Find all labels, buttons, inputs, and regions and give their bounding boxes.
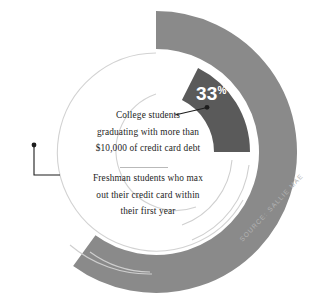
outer-percent-value: 60 <box>22 95 44 116</box>
outer-percent-label: 60% <box>22 96 53 115</box>
outer-percent-unit: % <box>44 97 53 108</box>
inner-caption-line-2: graduating with more than <box>66 124 230 141</box>
inner-percent-value: 33 <box>196 83 218 104</box>
inner-percent-unit: % <box>218 85 227 96</box>
inner-caption-line-1: College students <box>66 107 230 124</box>
inner-caption-line-3: $10,000 of credit card debt <box>66 140 230 157</box>
caption-divider <box>120 167 168 168</box>
outer-leader-line <box>32 143 60 175</box>
outer-caption-line-2: out their credit card within <box>62 187 234 204</box>
outer-leader-dot <box>32 143 37 148</box>
infographic-root: 60% 33% College students graduating with… <box>0 0 312 297</box>
inner-percent-label: 33% <box>196 84 227 103</box>
outer-caption: Freshman students who max out their cred… <box>62 170 234 220</box>
outer-caption-line-1: Freshman students who max <box>62 170 234 187</box>
outer-leader-stroke <box>34 146 60 175</box>
inner-caption: College students graduating with more th… <box>66 107 230 157</box>
outer-caption-line-3: their first year <box>62 203 234 220</box>
